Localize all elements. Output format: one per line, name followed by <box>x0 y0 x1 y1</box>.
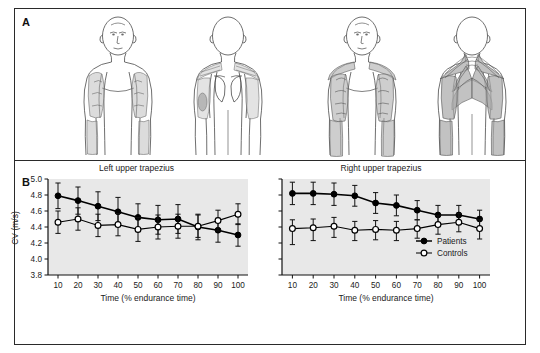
x-axis-label: Time (% endurance time) <box>100 293 195 303</box>
x-tick-label: 10 <box>53 281 63 290</box>
y-tick-label: 4.0 <box>31 255 43 264</box>
y-tick-label: 4.8 <box>31 191 43 200</box>
data-point-filled <box>235 232 241 238</box>
chart-right-plot: 102030405060708090100Time (% endurance t… <box>260 161 516 345</box>
x-tick-label: 20 <box>73 281 83 290</box>
body-diagram-posterior-icon <box>168 14 288 157</box>
data-point-open <box>175 223 181 229</box>
x-tick-label: 40 <box>113 281 123 290</box>
data-point-open <box>135 227 141 233</box>
body-diagram-posterior-shaded-icon <box>412 14 532 157</box>
data-point-open <box>310 225 316 231</box>
data-point-open <box>235 211 241 217</box>
y-tick-label: 4.2 <box>31 239 43 248</box>
x-tick-label: 100 <box>231 281 245 290</box>
data-point-open <box>331 223 337 229</box>
y-tick-label: 3.8 <box>31 271 43 280</box>
data-point-open <box>215 218 221 224</box>
data-point-open <box>414 226 420 232</box>
data-point-open <box>352 227 358 233</box>
data-point-open <box>195 223 201 229</box>
data-point-open <box>55 219 61 225</box>
x-tick-label: 100 <box>473 281 487 290</box>
x-tick-label: 90 <box>454 281 464 290</box>
x-tick-label: 40 <box>350 281 360 290</box>
data-point-open <box>477 226 483 232</box>
y-tick-label: 5.0 <box>31 175 43 184</box>
x-tick-label: 60 <box>392 281 402 290</box>
chart-left-plot: 3.84.04.24.44.64.85.01020304050607080901… <box>14 161 270 345</box>
panel-b: Left upper trapezius CV (m/s) 3.84.04.24… <box>14 161 526 345</box>
legend-label: Controls <box>437 249 468 258</box>
data-point-filled <box>373 200 379 206</box>
y-tick-label: 4.6 <box>31 207 43 216</box>
x-tick-label: 60 <box>153 281 163 290</box>
data-point-open <box>115 222 121 228</box>
figure-root: A B <box>0 0 540 353</box>
data-point-open <box>155 224 161 230</box>
legend-marker-open <box>421 250 427 256</box>
data-point-filled <box>310 191 316 197</box>
x-tick-label: 90 <box>213 281 223 290</box>
x-tick-label: 10 <box>288 281 298 290</box>
data-point-open <box>394 227 400 233</box>
data-point-open <box>373 227 379 233</box>
x-tick-label: 50 <box>371 281 381 290</box>
data-point-filled <box>290 191 296 197</box>
chart-left-upper-trapezius: Left upper trapezius CV (m/s) 3.84.04.24… <box>14 161 270 345</box>
y-tick-label: 4.4 <box>31 223 43 232</box>
x-axis-label: Time (% endurance time) <box>338 293 433 303</box>
x-tick-label: 30 <box>329 281 339 290</box>
x-tick-label: 20 <box>309 281 319 290</box>
data-point-open <box>290 226 296 232</box>
x-tick-label: 70 <box>413 281 423 290</box>
data-point-filled <box>414 207 420 213</box>
x-tick-label: 80 <box>433 281 443 290</box>
data-point-filled <box>331 191 337 197</box>
x-tick-label: 50 <box>133 281 143 290</box>
data-point-open <box>456 219 462 225</box>
data-point-open <box>435 222 441 228</box>
legend-label: Patients <box>437 237 467 246</box>
data-point-filled <box>95 203 101 209</box>
x-tick-label: 70 <box>173 281 183 290</box>
body-diagram-anterior-shaded-icon <box>302 14 422 157</box>
data-point-filled <box>55 193 61 199</box>
data-point-filled <box>352 193 358 199</box>
chart-right-upper-trapezius: Right upper trapezius 102030405060708090… <box>260 161 516 345</box>
data-point-open <box>75 216 81 222</box>
x-tick-label: 30 <box>93 281 103 290</box>
data-point-filled <box>75 198 81 204</box>
legend-marker-filled <box>421 238 427 244</box>
data-point-filled <box>394 203 400 209</box>
body-diagram-anterior-icon <box>58 14 178 157</box>
x-tick-label: 80 <box>193 281 203 290</box>
panel-a <box>16 10 524 158</box>
data-point-open <box>95 223 101 229</box>
